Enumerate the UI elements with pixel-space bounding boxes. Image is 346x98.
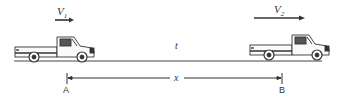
- velocity-subscript-2: 2: [281, 10, 285, 18]
- diagram-canvas: [0, 0, 346, 98]
- point-a-label: A: [63, 85, 69, 95]
- velocity-symbol-2: V: [274, 3, 281, 15]
- velocity-label-1: V1: [57, 6, 67, 21]
- time-label: t: [175, 41, 178, 51]
- pickup-truck-2: [250, 35, 329, 60]
- velocity-label-2: V2: [274, 4, 284, 19]
- velocity-symbol-1: V: [57, 5, 64, 17]
- pickup-truck-1: [15, 37, 94, 62]
- velocity-subscript-1: 1: [64, 12, 68, 20]
- distance-label: x: [174, 73, 178, 83]
- point-b-label: B: [279, 85, 285, 95]
